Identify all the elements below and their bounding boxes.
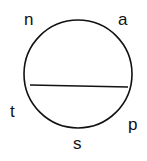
circle bbox=[24, 20, 132, 128]
label-s: s bbox=[73, 134, 82, 153]
label-p: p bbox=[128, 115, 137, 134]
label-t: t bbox=[10, 102, 15, 121]
label-a: a bbox=[118, 10, 128, 29]
chord bbox=[30, 85, 128, 87]
label-n: n bbox=[24, 10, 33, 29]
diagram: n a t p s bbox=[0, 0, 147, 161]
